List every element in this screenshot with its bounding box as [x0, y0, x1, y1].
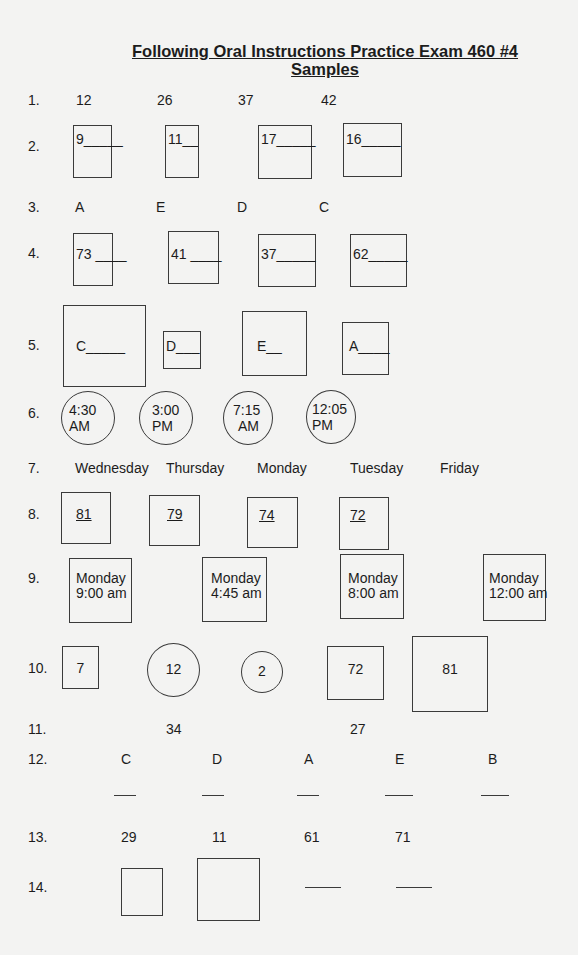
item-number-7: 7. — [28, 460, 40, 476]
row5-box-label: C_____ — [76, 338, 125, 354]
row9-box: Monday 12:00 am — [483, 554, 546, 621]
row8-box-number: 79 — [167, 506, 183, 522]
row5-box: D___ — [163, 331, 201, 369]
row8-box: 72 — [339, 497, 389, 550]
row5-box: E__ — [242, 311, 307, 376]
row5-box: A____ — [342, 322, 389, 375]
page-subtitle: Samples — [0, 60, 578, 78]
row4-box: 62_____ — [350, 234, 407, 287]
item-number-10: 10. — [28, 660, 47, 676]
row1-value: 37 — [238, 92, 254, 108]
row6-time: 7:15 — [233, 402, 260, 418]
row2-box: 17_____ — [258, 125, 312, 179]
row9-box: Monday 4:45 am — [202, 557, 267, 622]
row6-period: PM — [312, 417, 333, 433]
row12-letter: B — [488, 751, 497, 767]
row11-value: 34 — [166, 721, 182, 737]
row14-blank-line — [396, 887, 432, 888]
row2-box-label: 11_____ — [168, 131, 198, 147]
row10-number: 7 — [63, 660, 98, 676]
row2-box: 9_____ — [73, 125, 112, 178]
row10-circle: 2 — [241, 651, 283, 693]
row10-box: 7 — [62, 646, 99, 689]
row10-box: 72 — [327, 646, 384, 700]
row13-value: 61 — [304, 829, 320, 845]
row6-period: AM — [69, 418, 90, 434]
row4-box: 73 ____ — [73, 233, 113, 286]
row6-circle: 3:00 PM — [139, 391, 193, 445]
row12-blank-line — [202, 795, 224, 796]
row7-day: Wednesday — [75, 460, 149, 476]
row9-time: 4:45 am — [211, 585, 262, 601]
row8-box-number: 81 — [76, 506, 92, 522]
row12-letter: E — [395, 751, 404, 767]
row2-box: 11_____ — [165, 125, 199, 178]
row12-blank-line — [385, 795, 413, 796]
page-title: Following Oral Instructions Practice Exa… — [0, 42, 578, 60]
row7-day: Friday — [440, 460, 479, 476]
row14-box-small — [121, 868, 163, 916]
item-number-3: 3. — [28, 199, 40, 215]
row6-circle: 7:15 AM — [223, 391, 273, 445]
row2-box: 16_____ — [343, 123, 402, 177]
row9-time: 8:00 am — [348, 585, 399, 601]
row9-day: Monday — [489, 570, 539, 586]
row5-box-label: E__ — [257, 338, 282, 354]
row1-value: 26 — [157, 92, 173, 108]
row9-day: Monday — [348, 570, 398, 586]
row9-box: Monday 9:00 am — [69, 558, 132, 623]
row10-number: 2 — [242, 663, 282, 679]
row13-value: 29 — [121, 829, 137, 845]
row10-number: 72 — [328, 661, 383, 677]
row1-value: 42 — [321, 92, 337, 108]
row10-number: 12 — [148, 661, 199, 677]
row8-box: 79 — [149, 495, 200, 546]
row10-circle: 12 — [147, 643, 200, 697]
row6-time: 4:30 — [69, 402, 96, 418]
row11-value: 27 — [350, 721, 366, 737]
row4-box-label: 37_____ — [261, 246, 316, 262]
item-number-6: 6. — [28, 405, 40, 421]
item-number-2: 2. — [28, 138, 40, 154]
row14-box-large — [197, 858, 260, 921]
row7-day: Monday — [257, 460, 307, 476]
row2-box-label: 17_____ — [261, 131, 316, 147]
row12-letter: C — [121, 751, 131, 767]
row2-box-label: 9_____ — [76, 131, 123, 147]
item-number-12: 12. — [28, 751, 47, 767]
row14-blank-line — [305, 887, 341, 888]
row12-blank-line — [114, 795, 136, 796]
item-number-13: 13. — [28, 829, 47, 845]
row6-time: 3:00 — [152, 402, 179, 418]
item-number-14: 14. — [28, 879, 47, 895]
row8-box: 74 — [247, 497, 298, 548]
row6-circle: 12:05 PM — [306, 390, 356, 444]
row3-letter: C — [319, 199, 329, 215]
row9-time: 12:00 am — [489, 585, 547, 601]
row8-box: 81 — [61, 492, 111, 544]
row5-box-label: D___ — [166, 338, 199, 354]
item-number-1: 1. — [28, 92, 40, 108]
row3-letter: D — [237, 199, 247, 215]
row9-time: 9:00 am — [76, 585, 127, 601]
row4-box-label: 62_____ — [353, 246, 408, 262]
row12-letter: A — [304, 751, 313, 767]
row7-day: Tuesday — [350, 460, 403, 476]
item-number-11: 11. — [28, 721, 46, 737]
row8-box-number: 74 — [259, 507, 275, 523]
row10-number: 81 — [413, 661, 487, 677]
row3-letter: A — [75, 199, 84, 215]
row6-time: 12:05 — [312, 401, 347, 417]
item-number-8: 8. — [28, 506, 40, 522]
row1-value: 12 — [76, 92, 92, 108]
row6-period: AM — [238, 418, 259, 434]
row4-box: 41 ____ — [168, 231, 219, 284]
row9-day: Monday — [76, 570, 126, 586]
item-number-5: 5. — [28, 337, 40, 353]
row5-box: C_____ — [63, 305, 146, 387]
row9-day: Monday — [211, 570, 261, 586]
row12-blank-line — [481, 795, 509, 796]
row3-letter: E — [156, 199, 165, 215]
item-number-9: 9. — [28, 570, 40, 586]
row5-box-label: A____ — [349, 338, 389, 354]
